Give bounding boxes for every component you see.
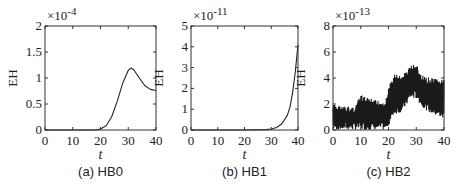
- x-tick-label: 10: [354, 133, 367, 148]
- noise-series: [333, 65, 444, 130]
- x-tick-label: 20: [94, 133, 107, 148]
- y-tick-label: 0: [36, 122, 43, 137]
- x-tick-label: 0: [188, 133, 195, 148]
- y-tick-label: 8: [324, 18, 331, 33]
- subplot-1: 01020304000.511.52×10-4EHt(a) HB0: [5, 5, 163, 179]
- y-tick-label: 5: [182, 18, 189, 33]
- y-axis-label: EH: [151, 69, 166, 86]
- x-tick-label: 30: [265, 133, 278, 148]
- y-tick-label: 4: [324, 70, 331, 85]
- y-tick-label: 1: [36, 70, 43, 85]
- x-axis-label: t: [99, 147, 104, 162]
- x-tick-label: 30: [410, 133, 423, 148]
- y-tick-label: 0.5: [26, 96, 42, 111]
- subplot-caption: (a) HB0: [78, 164, 123, 179]
- x-tick-label: 20: [238, 133, 251, 148]
- subplot-caption: (b) HB1: [222, 164, 267, 179]
- x-tick-label: 30: [122, 133, 135, 148]
- y-axis-label: EH: [293, 69, 308, 86]
- axis-multiplier: ×10-11: [193, 5, 228, 23]
- subplot-3: 01020304002468×10-13EHt(c) HB2: [293, 5, 451, 179]
- y-tick-label: 3: [182, 60, 189, 75]
- x-tick-label: 40: [438, 133, 451, 148]
- x-tick-label: 20: [382, 133, 395, 148]
- x-tick-label: 10: [211, 133, 224, 148]
- axis-multiplier: ×10-4: [47, 5, 77, 23]
- y-axis-label: EH: [5, 69, 20, 86]
- y-tick-label: 0: [182, 122, 189, 137]
- subplot-2: 010203040012345×10-11EHt(b) HB1: [151, 5, 305, 179]
- x-tick-label: 0: [330, 133, 337, 148]
- x-axis-label: t: [243, 147, 248, 162]
- y-tick-label: 2: [182, 80, 189, 95]
- y-tick-label: 6: [324, 44, 331, 59]
- x-tick-label: 0: [42, 133, 49, 148]
- y-tick-label: 0: [324, 122, 331, 137]
- axes-box: [191, 26, 298, 130]
- x-tick-label: 10: [66, 133, 79, 148]
- y-tick-label: 1.5: [26, 44, 42, 59]
- x-tick-label: 40: [292, 133, 305, 148]
- y-tick-label: 4: [182, 39, 189, 54]
- subplot-caption: (c) HB2: [366, 164, 410, 179]
- y-tick-label: 1: [182, 101, 189, 116]
- y-tick-label: 2: [36, 18, 43, 33]
- axis-multiplier: ×10-13: [335, 5, 371, 23]
- x-tick-label: 40: [150, 133, 163, 148]
- x-axis-label: t: [387, 147, 392, 162]
- y-tick-label: 2: [324, 96, 331, 111]
- line-series: [45, 68, 156, 130]
- figure: 01020304000.511.52×10-4EHt(a) HB00102030…: [0, 0, 461, 185]
- line-series: [191, 45, 298, 130]
